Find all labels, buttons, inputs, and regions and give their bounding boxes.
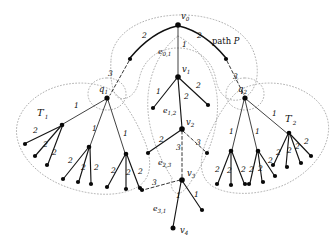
leaf-v2-dashed-right [205, 151, 209, 155]
weight-t2-c1: 2 [275, 148, 281, 157]
weight-t2-c3: 2 [294, 142, 300, 151]
weight-v1-left: 1 [156, 87, 161, 96]
weight-t1-b1: 2 [67, 156, 73, 165]
weight-t2-b1: 2 [248, 165, 254, 174]
weight-t1-a2: 2 [42, 140, 48, 149]
weight-t2-b2: 2 [257, 164, 263, 173]
weight-t1-a3: 2 [51, 148, 57, 157]
leaf-t2-b1 [247, 182, 251, 186]
weight-t2-q2-a: 1 [229, 127, 234, 136]
weight-t2-c4: 2 [303, 137, 309, 146]
edge-t1-b-leaf3 [90, 148, 91, 183]
weight-t1-c2: 2 [125, 168, 131, 177]
edge-v3-v4 [173, 182, 181, 227]
region-outline-spine [148, 36, 218, 193]
path-vertex-left [128, 57, 132, 61]
leaf-t1-a2 [33, 154, 37, 158]
leaf-t2-b3 [273, 174, 277, 178]
vertex-q1 [104, 95, 109, 100]
leaf-v1-right [206, 103, 210, 107]
edge-v2-dashed-right [183, 131, 206, 152]
leaf-t1-c1 [105, 185, 109, 189]
vertex-v1 [175, 74, 181, 80]
label-e01: e0,1 [158, 47, 171, 57]
region-outline-t1 [16, 83, 149, 194]
weight-path-left: 2 [141, 31, 147, 40]
label-v0: v0 [181, 11, 190, 22]
label-t2: T′2 [285, 113, 297, 126]
edge-v1-v2 [178, 78, 182, 128]
label-v2: v2 [186, 117, 195, 128]
leaf-t2-b2 [261, 180, 265, 184]
leaf-t2-c4 [309, 154, 313, 158]
weight-t1-b2: 2 [80, 163, 86, 172]
weight-t2-q2-c: 1 [272, 109, 277, 118]
weight-v1-right: 2 [195, 81, 201, 90]
weight-v2-dash-right: 3 [196, 138, 201, 147]
label-v4: v4 [180, 225, 189, 236]
weight-t2-b3: 2 [267, 156, 273, 165]
leaf-t1-c3 [138, 186, 142, 190]
leaf-t2-c3 [299, 161, 303, 165]
label-v3: v3 [187, 168, 196, 179]
weight-t1-q1-c: 1 [123, 129, 128, 138]
leaf-t2-a3 [243, 182, 247, 186]
label-e23: e2,3 [158, 158, 172, 168]
path-dashed-left-to-q1 [110, 61, 129, 95]
graph-canvas: v0 v1 v2 v3 v4 q1 q2 e0,1 [0, 0, 333, 248]
edge-q1-n3 [108, 100, 125, 153]
leaf-t1-a3 [45, 163, 49, 167]
leaf-v3-right [200, 208, 204, 212]
label-q2: q2 [238, 84, 247, 95]
leaf-t1-b2 [76, 180, 80, 184]
weight-t1-to-v3: 3 [152, 178, 157, 187]
region-outlines [16, 15, 328, 194]
leaf-t1-a1 [23, 142, 27, 146]
leaf-v2-left [146, 151, 150, 155]
weight-t1-a1: 2 [32, 126, 38, 135]
vertex-q2 [242, 95, 247, 100]
weight-v2-left: 2 [158, 135, 164, 144]
leaf-t1-b3 [89, 182, 93, 186]
label-e12: e1,2 [163, 106, 177, 116]
leaf-t1-b1 [61, 177, 65, 181]
path-vertex-right [224, 57, 228, 61]
leaf-t2-a1 [215, 182, 219, 186]
weight-t2-a2: 2 [226, 166, 232, 175]
vertex-v3 [179, 177, 185, 183]
weight-v1-v2: 2 [183, 92, 189, 101]
weight-t1-q1-b: 1 [92, 124, 97, 133]
weight-t1-b3: 2 [93, 163, 99, 172]
vertex-v4 [171, 226, 176, 231]
weight-t2-a1: 2 [214, 165, 220, 174]
weight-path-right: 2 [196, 31, 202, 40]
weight-v0-v1: 1 [182, 40, 187, 49]
edge-t1-to-v3 [143, 180, 180, 190]
leaf-t2-c2 [285, 165, 289, 169]
weight-v3-right: 1 [194, 190, 199, 199]
weight-t1-q1-a: 1 [74, 101, 79, 110]
weight-v3-left: 1 [176, 191, 181, 200]
weight-t1-c1: 2 [110, 166, 116, 175]
label-t1: T′1 [37, 107, 48, 120]
label-q1: q1 [99, 84, 108, 95]
leaf-t1-c2 [124, 187, 128, 191]
label-path-p: path P [212, 36, 240, 46]
weight-t2-a3: 2 [240, 165, 246, 174]
edge-q2-n1 [232, 100, 244, 150]
weight-v2-dash-left: 3 [176, 143, 181, 152]
weight-t2-c2: 2 [286, 146, 292, 155]
label-e31: e3,1 [153, 204, 166, 214]
leaf-t2-a2 [229, 183, 233, 187]
figure-root: v0 v1 v2 v3 v4 q1 q2 e0,1 [0, 0, 333, 248]
vertex-v0 [175, 22, 181, 28]
label-v1: v1 [182, 64, 190, 75]
weight-t2-q2-b: 1 [255, 127, 260, 136]
weight-q2-link: 3 [233, 72, 238, 81]
text-labels: v0 v1 v2 v3 v4 q1 q2 e0,1 [32, 11, 309, 236]
weight-t1-c3: 2 [137, 167, 143, 176]
vertex-v2 [179, 126, 185, 132]
weight-q1-link: 3 [108, 69, 113, 78]
leaf-v1-left [151, 106, 155, 110]
